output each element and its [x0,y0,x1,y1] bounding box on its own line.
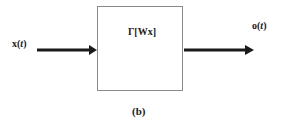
output-arrow [184,45,254,55]
block-label: Γ[Wx] [128,26,156,37]
figure-caption: (b) [132,105,145,117]
input-label: x(t) [12,38,26,49]
transfer-block [97,6,183,91]
input-arrow [37,45,97,55]
output-label: o(t) [252,20,266,31]
